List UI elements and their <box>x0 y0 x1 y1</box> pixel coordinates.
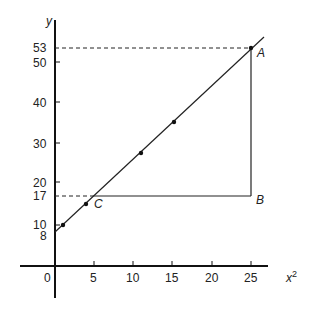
x-tick-5: 5 <box>90 271 97 285</box>
point-label-B: B <box>256 193 264 207</box>
y-tick-30: 30 <box>33 137 47 151</box>
x-tick-20: 20 <box>205 271 219 285</box>
y-tick-20: 20 <box>33 176 47 190</box>
point-label-C: C <box>94 197 103 211</box>
y-axis-label: y <box>45 14 53 28</box>
point-label-A: A <box>256 46 265 60</box>
y-tick-8: 8 <box>40 229 47 243</box>
y-tick-53: 53 <box>33 41 47 55</box>
chart: 0 5 10 15 20 25 53 50 40 30 20 17 10 8 y… <box>0 0 313 313</box>
x-axis-label: x2 <box>285 269 297 285</box>
x-tick-10: 10 <box>126 271 140 285</box>
x-tick-0: 0 <box>44 271 51 285</box>
x-tick-15: 15 <box>165 271 179 285</box>
y-tick-40: 40 <box>33 96 47 110</box>
x-tick-25: 25 <box>244 271 258 285</box>
y-tick-50: 50 <box>33 56 47 70</box>
y-tick-17: 17 <box>33 189 47 203</box>
